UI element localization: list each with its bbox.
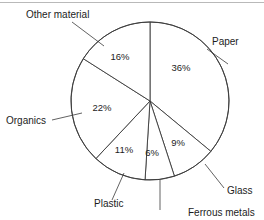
slice-value-label-paper: 36%	[171, 62, 191, 73]
slice-value-label-organics: 22%	[92, 102, 112, 113]
slice-category-label-glass: Glass	[227, 185, 253, 196]
slice-category-label-plastic: Plastic	[94, 198, 123, 209]
slice-value-label-plastic: 11%	[115, 144, 134, 155]
pie-chart-svg: 36%9%6%11%22%16% PaperGlassFerrous metal…	[0, 0, 264, 220]
slice-value-label-other-material: 16%	[110, 51, 130, 62]
slice-value-label-ferrous-metals: 6%	[145, 147, 159, 158]
slice-category-label-ferrous-metals: Ferrous metals	[188, 207, 255, 218]
pie-chart-figure: 36%9%6%11%22%16% PaperGlassFerrous metal…	[0, 0, 264, 220]
slice-value-label-glass: 9%	[171, 137, 185, 148]
leader-line-glass	[205, 164, 224, 188]
slice-category-label-other-material: Other material	[26, 9, 89, 20]
leader-line-other-material	[72, 22, 104, 46]
slice-category-label-paper: Paper	[212, 36, 239, 47]
leader-line-plastic	[112, 173, 124, 200]
slice-category-label-organics: Organics	[6, 115, 46, 126]
